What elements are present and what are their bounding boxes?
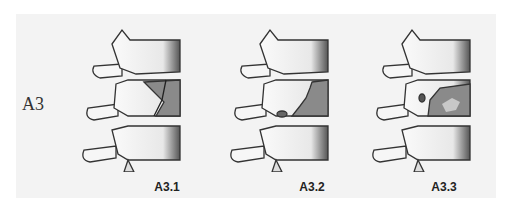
caption-a3-2: A3.2 [272, 180, 352, 194]
row-label: A3 [22, 94, 44, 115]
caption-a3-3: A3.3 [404, 180, 484, 194]
vertebra-illustration-a3-2 [230, 22, 360, 172]
vertebra-illustration-a3-3 [372, 22, 502, 172]
vertebra-illustration-a3-1 [82, 22, 212, 172]
caption-a3-1: A3.1 [127, 180, 207, 194]
